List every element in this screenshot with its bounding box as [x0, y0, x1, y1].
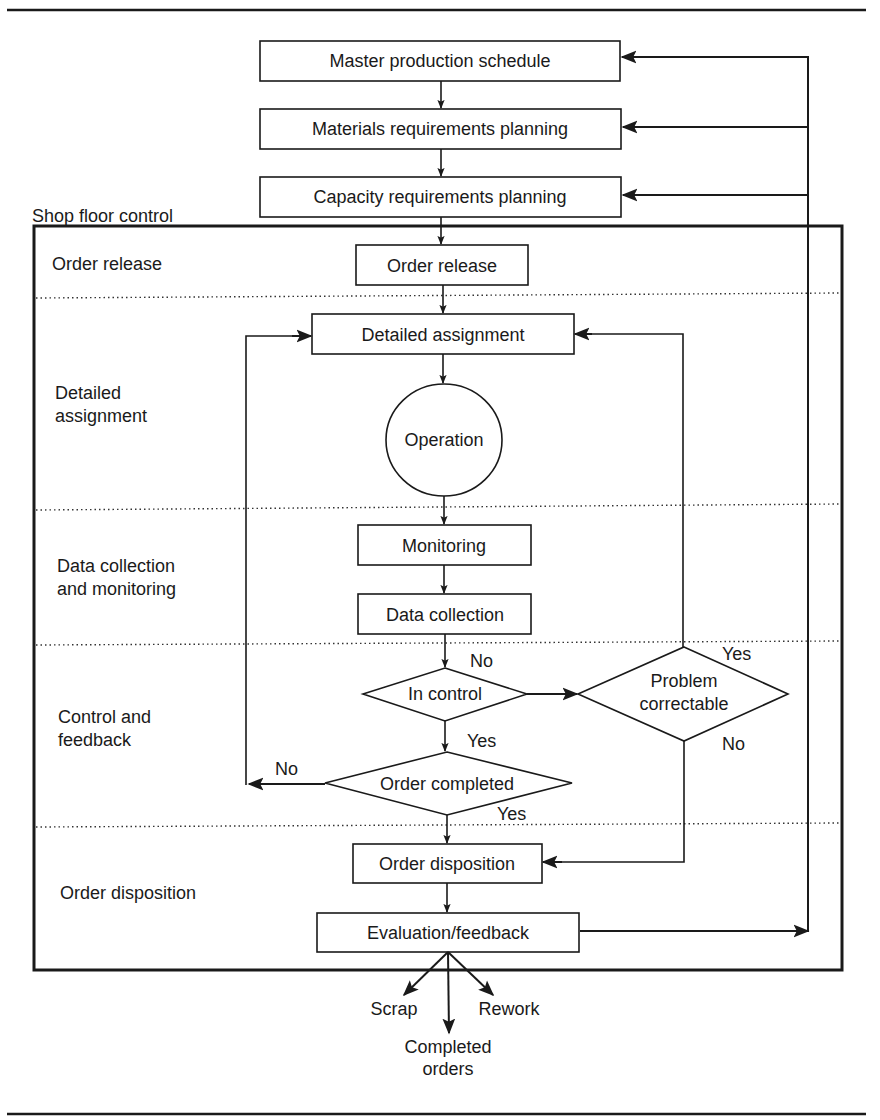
box-capacity-requirements-planning: Capacity requirements planning	[260, 177, 621, 217]
edge-label-problem-no: No	[722, 734, 745, 754]
loop-problem-yes-line	[590, 334, 683, 647]
lane-label-order-release: Order release	[52, 254, 162, 274]
node-evaluation-feedback: Evaluation/feedback	[317, 913, 579, 952]
edge-label-order-completed-no: No	[275, 759, 298, 779]
label-data-collection: Data collection	[386, 605, 504, 625]
label-problem-correctable-1: Problem	[650, 671, 717, 691]
lane-label-data-collection-1: Data collection	[57, 556, 175, 576]
label-in-control: In control	[408, 684, 482, 704]
output-label-scrap: Scrap	[370, 999, 417, 1019]
node-detailed-assignment: Detailed assignment	[312, 314, 574, 354]
edge-label-order-completed-yes: Yes	[497, 804, 526, 824]
node-order-release: Order release	[356, 245, 528, 285]
lane-divider-2	[36, 504, 840, 510]
label-order-release: Order release	[387, 256, 497, 276]
edge-label-in-control-yes: Yes	[467, 731, 496, 751]
node-data-collection: Data collection	[358, 594, 531, 634]
lane-label-data-collection-2: and monitoring	[57, 579, 176, 599]
lane-label-control-feedback-1: Control and	[58, 707, 151, 727]
lane-divider-1	[36, 293, 840, 298]
output-label-rework: Rework	[478, 999, 540, 1019]
label-operation: Operation	[404, 430, 483, 450]
box-materials-requirements-planning: Materials requirements planning	[260, 109, 621, 149]
output-label-completed-1: Completed	[404, 1037, 491, 1057]
node-order-disposition: Order disposition	[353, 844, 542, 883]
output-label-completed-2: orders	[422, 1059, 473, 1079]
label-monitoring: Monitoring	[402, 536, 486, 556]
label-order-disposition: Order disposition	[379, 854, 515, 874]
label-problem-correctable-2: correctable	[639, 694, 728, 714]
node-problem-correctable: Problem correctable	[578, 647, 788, 741]
lane-divider-3	[36, 641, 840, 645]
edge-label-in-control-no: No	[470, 651, 493, 671]
label-order-completed: Order completed	[380, 774, 514, 794]
node-operation: Operation	[386, 384, 502, 496]
label-evaluation-feedback: Evaluation/feedback	[367, 923, 530, 943]
label-detailed-assignment: Detailed assignment	[361, 325, 524, 345]
label-master-production-schedule: Master production schedule	[329, 51, 550, 71]
arrow-to-completed-orders	[448, 952, 449, 1033]
shop-floor-control-flowchart: Master production schedule Materials req…	[0, 0, 880, 1120]
label-capacity-requirements-planning: Capacity requirements planning	[313, 187, 566, 207]
label-materials-requirements-planning: Materials requirements planning	[312, 119, 568, 139]
node-in-control: In control	[363, 668, 527, 721]
loop-problem-no-line	[560, 741, 684, 862]
container-label-shop-floor-control: Shop floor control	[32, 206, 173, 226]
lane-label-control-feedback-2: feedback	[58, 730, 132, 750]
lane-label-order-disposition: Order disposition	[60, 883, 196, 903]
node-monitoring: Monitoring	[358, 525, 531, 565]
box-master-production-schedule: Master production schedule	[260, 41, 620, 81]
arrow-to-scrap	[404, 952, 448, 995]
edge-label-problem-yes: Yes	[722, 644, 751, 664]
lane-label-detailed-assignment-2: assignment	[55, 406, 147, 426]
arrow-to-rework	[448, 952, 493, 995]
lane-label-detailed-assignment-1: Detailed	[55, 383, 121, 403]
lane-divider-4	[36, 823, 840, 827]
loop-order-completed-no-line	[246, 336, 296, 785]
node-order-completed: Order completed	[325, 752, 572, 815]
